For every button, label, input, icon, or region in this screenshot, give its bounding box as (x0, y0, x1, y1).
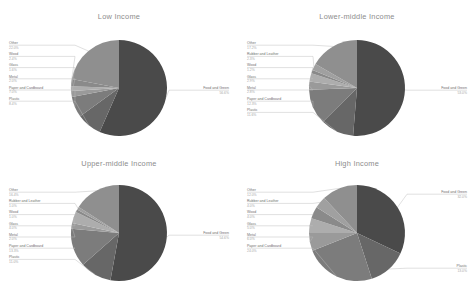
slice-label: Food and Green (441, 86, 467, 90)
leader-line (247, 45, 333, 46)
pie-panel: Low IncomeOther22.0%Wood2.4%Glass1.6%Met… (0, 0, 238, 147)
slice-label: Wood (9, 210, 18, 214)
slice-percent: 12.0% (247, 193, 257, 197)
slice-label: Paper and Cardboard (9, 244, 43, 248)
pie-chart-grid: Low IncomeOther22.0%Wood2.4%Glass1.6%Met… (0, 0, 476, 294)
leader-line (247, 86, 313, 90)
slice-percent: 4.0% (9, 226, 17, 230)
chart-title: Upper-middle Income (81, 159, 156, 168)
slice-label: Paper and Cardboard (9, 86, 43, 90)
slice-label: Rubber and Leather (247, 52, 279, 56)
slice-percent: 32.0% (457, 195, 467, 199)
slice-label: Paper and Cardboard (247, 97, 281, 101)
slice-label: Wood (247, 210, 256, 214)
leader-line (9, 101, 89, 125)
slice-label: Food and Green (203, 86, 229, 90)
chart-title: Lower-middle Income (319, 12, 394, 21)
leader-line (9, 203, 78, 208)
leader-line (9, 45, 88, 51)
slice-label: Plastic (457, 264, 468, 268)
slice-label: Rubber and Leather (9, 199, 41, 203)
slice-percent: 1.0% (9, 215, 17, 219)
slice-percent: 4.0% (247, 204, 255, 208)
slice-label: Glass (247, 75, 256, 79)
leader-line (247, 237, 313, 242)
leader-line (9, 211, 76, 215)
slice-percent: 8.4% (9, 102, 17, 106)
leader-line (247, 188, 339, 192)
slice-percent: 56.6% (219, 91, 229, 95)
slice-label: Metal (247, 233, 256, 237)
slice-percent: 11.6% (247, 113, 256, 117)
leader-line (9, 217, 75, 225)
slice-label: Other (247, 41, 257, 45)
chart-title: Low Income (98, 12, 140, 21)
slice-label: Glass (9, 222, 18, 226)
slice-percent: 2.0% (9, 79, 17, 83)
slice-label: Other (9, 41, 19, 45)
slice-percent: 13.0% (457, 269, 467, 273)
slice-percent: 54.6% (219, 236, 229, 240)
slice-percent: 16.4% (9, 193, 19, 197)
leader-line (247, 101, 313, 107)
slice-label: Plastic (9, 97, 20, 101)
slice-label: Glass (247, 222, 256, 226)
slice-percent: 4.0% (247, 215, 255, 219)
slice-percent: 24.0% (247, 249, 257, 253)
slice-label: Plastic (9, 255, 20, 259)
slice-percent: 1.2% (247, 68, 255, 72)
chart-title: High Income (335, 159, 379, 168)
slice-percent: 22.0% (9, 46, 19, 50)
slice-percent: 11.0% (9, 260, 18, 264)
pie-wedge (353, 40, 405, 136)
leader-line (389, 268, 467, 269)
slice-label: Wood (9, 52, 18, 56)
slice-label: Plastic (247, 108, 258, 112)
slice-percent: 2.9% (247, 79, 255, 83)
slice-percent: 6.0% (247, 237, 255, 241)
slice-label: Wood (247, 63, 256, 67)
slice-percent: 7.0% (9, 90, 17, 94)
slice-percent: 2.8% (247, 90, 255, 94)
pie-panel: Upper-middle IncomeOther16.4%Rubber and … (0, 147, 238, 294)
leader-line (247, 68, 313, 72)
leader-line (247, 77, 313, 78)
slice-label: Other (247, 188, 257, 192)
slice-percent: 2.0% (9, 237, 17, 241)
slice-percent: 12.3% (247, 102, 257, 106)
slice-label: Paper and Cardboard (247, 244, 281, 248)
slice-label: Metal (9, 75, 18, 79)
slice-percent: 2.4% (9, 57, 17, 61)
slice-label: Glass (9, 63, 18, 67)
slice-label: Metal (247, 86, 256, 90)
pie-panel: Lower-middle IncomeOther17.2%Rubber and … (238, 0, 476, 147)
leader-line (9, 226, 75, 237)
slice-label: Metal (9, 233, 18, 237)
leader-line (247, 56, 314, 67)
pie-panel: High IncomeOther12.0%Rubber and Leather4… (238, 147, 476, 294)
slice-percent: 1.0% (9, 204, 17, 208)
slice-label: Food and Green (441, 190, 467, 194)
slice-percent: 1.6% (9, 68, 17, 72)
leader-line (247, 213, 314, 215)
slice-percent: 5.0% (247, 226, 255, 230)
leader-line (9, 191, 96, 192)
slice-percent: 2.3% (247, 57, 255, 61)
slice-label: Other (9, 188, 19, 192)
slice-label: Food and Green (203, 231, 229, 235)
slice-percent: 17.2% (247, 46, 257, 50)
slice-percent: 53.0% (457, 91, 467, 95)
slice-label: Rubber and Leather (247, 199, 279, 203)
slice-percent: 13.3% (9, 249, 19, 253)
